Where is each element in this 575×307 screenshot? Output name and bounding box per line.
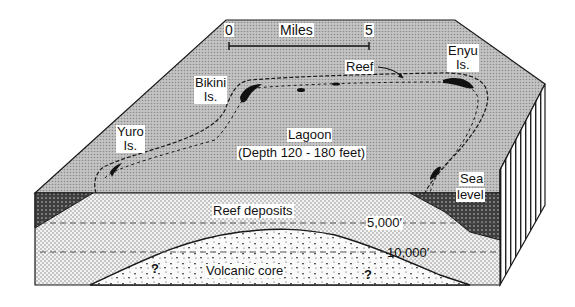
scale-start-label: 0	[224, 23, 234, 37]
bikini-suffix: Is.	[195, 90, 226, 104]
depth-5000-label: 5,000′	[366, 216, 403, 230]
bikini-name: Bikini	[195, 76, 226, 90]
reef-label: Reef	[345, 60, 374, 74]
lagoon-label: Lagoon	[287, 128, 332, 142]
scale-unit-label: Miles	[279, 23, 314, 37]
lagoon-depth-label: (Depth 120 - 180 feet)	[237, 146, 366, 160]
sea-label: Sea	[459, 172, 484, 186]
reef-islet	[332, 83, 340, 86]
yuro-name: Yuro	[117, 125, 144, 139]
reef-islet	[297, 88, 305, 92]
enyu-island-label: Enyu Is.	[447, 44, 479, 72]
yuro-suffix: Is.	[117, 139, 144, 153]
scale-end-label: 5	[364, 23, 374, 37]
depth-10000-label: 10,000′	[386, 246, 430, 260]
unknown-marker-left: ?	[150, 262, 160, 276]
level-label: level	[456, 188, 485, 202]
reef-deposits-label: Reef deposits	[212, 204, 294, 218]
unknown-marker-right: ?	[363, 268, 373, 282]
bikini-island-label: Bikini Is.	[194, 76, 227, 104]
yuro-island-label: Yuro Is.	[116, 125, 145, 153]
enyu-name: Enyu	[448, 44, 478, 58]
enyu-suffix: Is.	[448, 58, 478, 72]
volcanic-core-label: Volcanic core	[205, 264, 284, 278]
